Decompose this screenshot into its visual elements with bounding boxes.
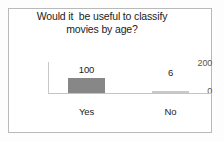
bar-value-label-no: 6 bbox=[150, 67, 191, 78]
bar-no[interactable] bbox=[152, 91, 189, 93]
x-axis-category-label-yes: Yes bbox=[66, 106, 107, 117]
x-axis-category-label-no: No bbox=[150, 106, 191, 117]
chart-figure: Would it be useful to classify movies by… bbox=[0, 0, 224, 142]
chart-plot-area: 200 0 100 6 Yes No bbox=[8, 8, 212, 133]
bar-value-label-yes: 100 bbox=[66, 64, 107, 75]
bar-yes[interactable] bbox=[68, 78, 105, 93]
bars-container bbox=[8, 8, 212, 94]
